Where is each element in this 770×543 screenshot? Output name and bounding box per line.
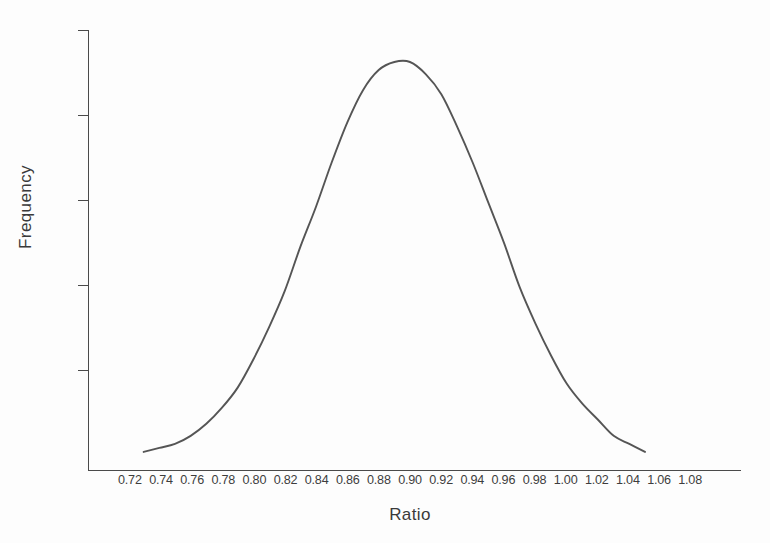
x-axis-tick-labels: 0.72 0.74 0.76 0.78 0.80 0.82 0.84 0.86 … [118,473,702,493]
x-tick-label: 0.76 [180,473,204,488]
x-tick-label: 0.82 [274,473,298,488]
x-tick-label: 0.86 [336,473,360,488]
x-tick-label: 1.02 [585,473,609,488]
x-tick-label: 0.96 [492,473,516,488]
frequency-ratio-chart: 0.72 0.74 0.76 0.78 0.80 0.82 0.84 0.86 … [0,0,770,543]
x-tick-label: 0.94 [460,473,484,488]
x-tick-label: 0.84 [305,473,329,488]
x-tick-label: 0.98 [523,473,547,488]
distribution-curve [144,61,645,452]
x-tick-label: 0.92 [429,473,453,488]
x-tick-label: 0.72 [118,473,142,488]
y-axis-group [78,30,89,471]
x-tick-label: 0.88 [367,473,391,488]
x-axis-title: Ratio [0,505,770,525]
x-tick-label: 0.80 [243,473,267,488]
chart-plot-area [0,0,770,543]
y-axis-title: Frequency [16,137,36,277]
x-tick-label: 1.04 [616,473,640,488]
x-tick-label: 0.78 [211,473,235,488]
x-tick-label: 1.08 [678,473,702,488]
x-tick-label: 1.00 [554,473,578,488]
x-tick-label: 0.74 [149,473,173,488]
x-tick-label: 0.90 [398,473,422,488]
x-tick-label: 1.06 [647,473,671,488]
